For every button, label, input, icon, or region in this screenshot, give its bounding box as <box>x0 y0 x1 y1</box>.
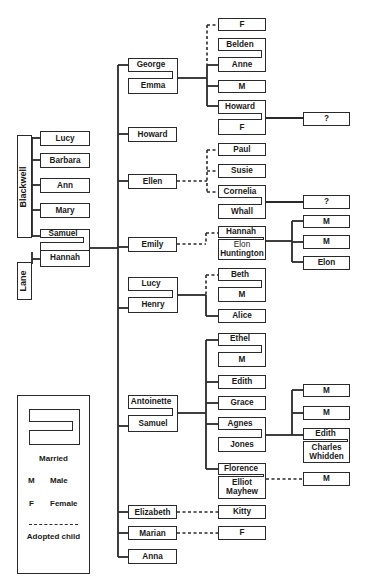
surname-blackwell: Blackwell <box>18 146 32 229</box>
person-agnes: Agnes <box>218 419 262 429</box>
person-antoinette: Antoinette <box>128 397 174 407</box>
person-jones: Jones <box>218 440 266 450</box>
couple-howard-f[interactable]: Howard F <box>218 100 266 135</box>
person-whidden: Whidden <box>303 452 350 462</box>
person-cornelia: Cornelia <box>218 187 262 197</box>
person-beth: Beth <box>218 270 262 280</box>
couple-cornelia-whall[interactable]: Cornelia Whall <box>218 185 266 219</box>
person-howard-child-unknown[interactable]: ? <box>303 112 350 126</box>
person-lucy-2: Lucy <box>128 279 174 289</box>
person-hannah-son-m-2[interactable]: M <box>303 235 350 249</box>
person-whall: Whall <box>218 207 266 217</box>
person-edith[interactable]: Edith <box>218 375 266 389</box>
person-emily[interactable]: Emily <box>128 237 177 252</box>
person-anne: Anne <box>218 60 266 70</box>
couple-agnes-jones[interactable]: Agnes Jones <box>218 417 266 452</box>
person-emma: Emma <box>128 81 178 91</box>
person-marian-adopted-f[interactable]: F <box>218 526 266 540</box>
person-lucy[interactable]: Lucy <box>40 131 90 146</box>
person-barbara[interactable]: Barbara <box>40 153 90 168</box>
person-mayhew: Mayhew <box>218 487 266 497</box>
legend-female-label: Female <box>50 499 78 508</box>
married-symbol-icon <box>29 409 80 445</box>
person-edith-2: Edith <box>303 429 348 439</box>
couple-ethel-m[interactable]: Ethel M <box>218 333 266 367</box>
couple-lucy-henry[interactable]: Lucy Henry <box>128 277 178 313</box>
person-hannah-2: Hannah <box>218 227 264 237</box>
legend-adopted-label: Adopted child <box>18 532 89 541</box>
person-agnes-son-m-1[interactable]: M <box>303 384 350 397</box>
person-elizabeth[interactable]: Elizabeth <box>128 505 177 519</box>
legend-female-key: F <box>29 499 34 508</box>
person-samuel: Samuel <box>40 229 86 239</box>
person-marian[interactable]: Marian <box>128 526 177 540</box>
person-susie[interactable]: Susie <box>218 164 266 178</box>
person-florence: Florence <box>218 464 264 474</box>
person-howard[interactable]: Howard <box>128 127 177 142</box>
person-ethel-husband-m: M <box>218 355 266 365</box>
legend-married-label: Married <box>18 454 89 463</box>
couple-george-emma[interactable]: George Emma <box>128 58 178 94</box>
person-paul[interactable]: Paul <box>218 143 266 156</box>
person-ethel: Ethel <box>218 334 262 344</box>
person-hannah-son-m-1[interactable]: M <box>303 215 350 228</box>
person-mary[interactable]: Mary <box>40 203 90 218</box>
couple-samuel-hannah[interactable]: Samuel Hannah <box>40 229 90 267</box>
person-florence-adopted-m[interactable]: M <box>303 472 350 486</box>
person-elon-jr[interactable]: Elon <box>303 256 350 270</box>
couple-florence-elliot-mayhew[interactable]: Florence Elliot Mayhew <box>218 463 266 499</box>
couple-edith-charles-whidden[interactable]: Edith Charles Whidden <box>303 428 350 463</box>
person-belden: Belden <box>218 40 262 50</box>
person-beth-husband-m: M <box>218 290 266 300</box>
person-ann[interactable]: Ann <box>40 178 90 193</box>
person-hannah: Hannah <box>40 253 90 263</box>
couple-hannah-elon-huntington[interactable]: Hannah Elon Huntington <box>218 226 266 260</box>
person-ellen[interactable]: Ellen <box>128 174 177 189</box>
person-agnes-son-m-2[interactable]: M <box>303 406 350 420</box>
person-howard-2: Howard <box>218 102 262 112</box>
person-george: George <box>128 60 174 70</box>
legend-male-label: Male <box>50 476 68 485</box>
legend-male-key: M <box>28 476 35 485</box>
person-grace[interactable]: Grace <box>218 396 266 410</box>
couple-beth-m[interactable]: Beth M <box>218 268 266 302</box>
surname-lane: Lane <box>18 262 32 301</box>
person-huntington: Huntington <box>218 249 266 259</box>
couple-belden-anne[interactable]: Belden Anne <box>218 38 266 72</box>
person-kitty[interactable]: Kitty <box>218 505 266 519</box>
adopted-line-icon <box>29 524 78 525</box>
person-samuel-2: Samuel <box>128 419 178 429</box>
couple-antoinette-samuel[interactable]: Antoinette Samuel <box>128 395 178 432</box>
legend: Married M Male F Female Adopted child <box>17 395 90 574</box>
person-george-adopted-f[interactable]: F <box>218 18 266 31</box>
person-cornelia-child-unknown[interactable]: ? <box>303 195 350 209</box>
person-howard-wife-f: F <box>218 123 266 133</box>
person-alice[interactable]: Alice <box>218 309 266 323</box>
person-george-son-m[interactable]: M <box>218 80 266 93</box>
person-henry: Henry <box>128 300 178 310</box>
person-anna[interactable]: Anna <box>128 549 177 564</box>
